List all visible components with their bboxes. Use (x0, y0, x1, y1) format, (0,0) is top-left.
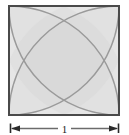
dimension-label: 1 (62, 123, 68, 135)
geometry-figure: 1 (0, 0, 129, 135)
dimension-arrowhead-right-icon (109, 126, 118, 132)
petal-shading-group (9, 6, 119, 115)
dimension-line-group: 1 (11, 123, 119, 135)
square-with-arcs-diagram: 1 (0, 0, 129, 135)
dimension-arrowhead-left-icon (11, 126, 20, 132)
